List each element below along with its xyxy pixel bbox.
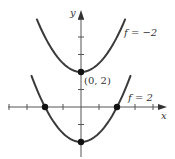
marked-point bbox=[114, 104, 120, 110]
marked-point bbox=[42, 104, 48, 110]
x-axis-label: x bbox=[161, 110, 167, 121]
curve-label-f-2: f = 2 bbox=[127, 92, 153, 103]
vertex-label: (0, 2) bbox=[84, 75, 111, 86]
y-axis-arrow-icon bbox=[78, 10, 84, 19]
y-axis-label: y bbox=[69, 7, 76, 18]
level-curves-plot: y x (0, 2) f = −2 f = 2 bbox=[0, 0, 175, 159]
curve-label-f-neg2: f = −2 bbox=[123, 27, 157, 38]
marked-point bbox=[78, 139, 84, 145]
